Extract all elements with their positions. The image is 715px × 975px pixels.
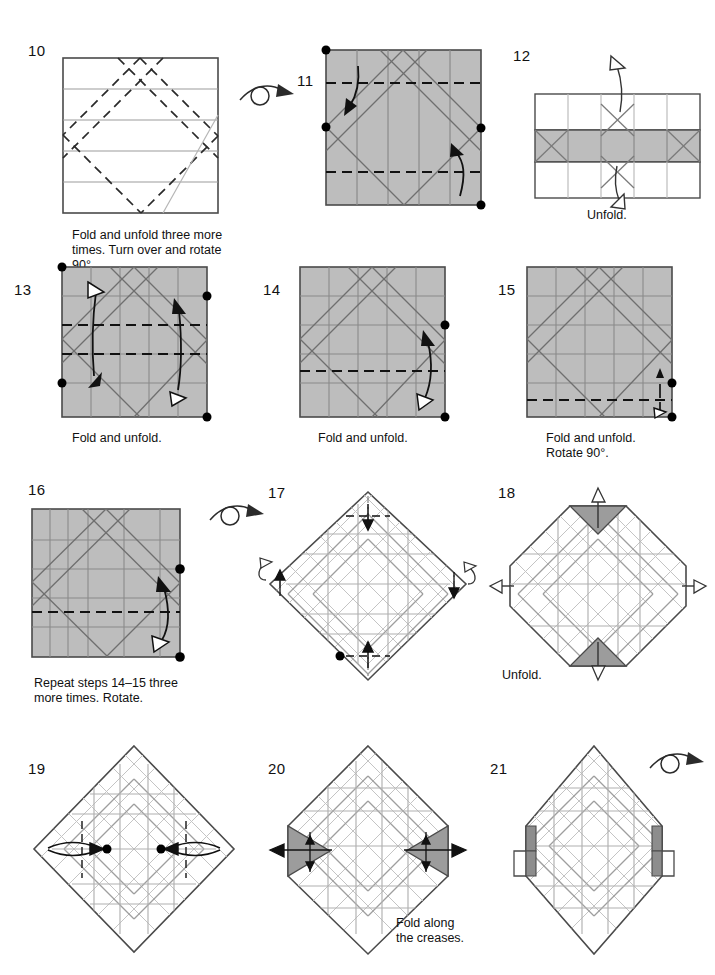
step-panel-18: 18 <box>480 478 715 718</box>
step-panel-12: 12 <box>505 20 715 260</box>
figure-16 <box>24 504 204 664</box>
step-number-15: 15 <box>498 281 516 298</box>
step-panel-19: 19 <box>10 728 260 975</box>
step-panel-15: 15 <box>490 255 715 470</box>
figure-19 <box>22 736 242 966</box>
origami-instruction-sheet: 10 <box>0 0 715 975</box>
caption-20: Fold along the creases. <box>396 916 464 946</box>
step-number-10: 10 <box>28 42 46 59</box>
figure-18 <box>488 484 708 684</box>
step-panel-21: 21 <box>480 728 715 975</box>
step-panel-11: 11 <box>295 20 525 260</box>
figure-14 <box>295 260 475 425</box>
caption-15: Fold and unfold. Rotate 90°. <box>546 431 636 461</box>
step-panel-17: 17 <box>250 478 485 718</box>
turn-over-icon <box>648 746 710 786</box>
figure-15 <box>522 260 702 425</box>
step-panel-20: 20 <box>250 728 485 975</box>
step-number-16: 16 <box>28 481 46 498</box>
figure-12 <box>525 52 715 202</box>
caption-14: Fold and unfold. <box>318 431 408 446</box>
figure-10 <box>58 53 223 218</box>
step-panel-14: 14 <box>255 255 490 470</box>
caption-16: Repeat steps 14–15 three more times. Rot… <box>34 676 178 706</box>
step-number-14: 14 <box>263 281 281 298</box>
step-number-11: 11 <box>297 72 313 89</box>
figure-13 <box>48 260 228 425</box>
step-panel-13: 13 <box>10 255 250 470</box>
caption-12: Unfold. <box>587 208 627 223</box>
figure-11 <box>320 44 500 224</box>
caption-13: Fold and unfold. <box>72 431 162 446</box>
caption-18: Unfold. <box>502 668 542 683</box>
step-number-13: 13 <box>14 281 32 298</box>
step-panel-10: 10 <box>0 20 240 260</box>
turn-over-icon <box>238 78 300 118</box>
figure-17 <box>258 484 478 689</box>
